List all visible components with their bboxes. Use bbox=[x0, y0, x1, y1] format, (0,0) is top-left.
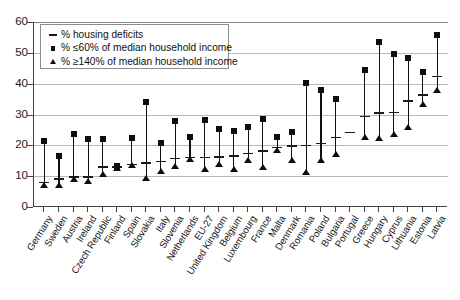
marker-below-60 bbox=[362, 67, 368, 73]
gridline bbox=[34, 145, 448, 146]
marker-below-60 bbox=[405, 55, 411, 61]
marker-above-140 bbox=[404, 124, 412, 130]
marker-housing-deficits bbox=[345, 132, 355, 134]
marker-below-60 bbox=[129, 135, 135, 141]
marker-above-140 bbox=[390, 131, 398, 137]
y-tick-label: 20 bbox=[2, 139, 28, 151]
marker-housing-deficits bbox=[389, 112, 399, 114]
marker-housing-deficits bbox=[243, 153, 253, 155]
marker-above-140 bbox=[332, 151, 340, 157]
marker-above-140 bbox=[259, 164, 267, 170]
marker-housing-deficits bbox=[374, 112, 384, 114]
marker-housing-deficits bbox=[200, 157, 210, 159]
x-tick-mark bbox=[378, 207, 379, 212]
marker-housing-deficits bbox=[360, 116, 370, 118]
marker-below-60 bbox=[216, 126, 222, 132]
marker-above-140 bbox=[230, 166, 238, 172]
x-tick-mark bbox=[145, 207, 146, 212]
marker-housing-deficits bbox=[316, 143, 326, 145]
marker-housing-deficits bbox=[331, 137, 341, 139]
gridline bbox=[34, 176, 448, 177]
x-tick-mark bbox=[218, 207, 219, 212]
range-stem bbox=[44, 141, 45, 186]
range-stem bbox=[58, 156, 59, 186]
range-stem bbox=[422, 72, 423, 104]
y-tick-label: 50 bbox=[2, 47, 28, 59]
range-stem bbox=[393, 54, 394, 134]
x-tick-mark bbox=[276, 207, 277, 212]
range-stem bbox=[306, 83, 307, 172]
x-tick-mark bbox=[73, 207, 74, 212]
marker-below-60 bbox=[434, 32, 440, 38]
marker-above-140 bbox=[157, 168, 165, 174]
marker-above-140 bbox=[128, 162, 136, 168]
range-stem bbox=[102, 139, 103, 174]
range-stem bbox=[364, 70, 365, 136]
marker-above-140 bbox=[375, 135, 383, 141]
range-stem bbox=[379, 42, 380, 137]
x-tick-mark bbox=[305, 207, 306, 212]
marker-below-60 bbox=[420, 69, 426, 75]
range-stem bbox=[131, 138, 132, 166]
x-tick-mark bbox=[320, 207, 321, 212]
legend-item-above-140: % ≥140% of median household income bbox=[47, 55, 223, 69]
marker-below-60 bbox=[274, 134, 280, 140]
marker-housing-deficits bbox=[432, 76, 442, 78]
marker-housing-deficits bbox=[272, 147, 282, 149]
triangle-marker-icon bbox=[47, 59, 59, 64]
marker-housing-deficits bbox=[127, 164, 137, 166]
marker-above-140 bbox=[317, 157, 325, 163]
y-tick-label: 40 bbox=[2, 78, 28, 90]
x-tick-mark bbox=[87, 207, 88, 212]
marker-housing-deficits bbox=[185, 157, 195, 159]
marker-above-140 bbox=[273, 147, 281, 153]
marker-housing-deficits bbox=[418, 94, 428, 96]
range-stem bbox=[189, 137, 190, 160]
marker-housing-deficits bbox=[170, 158, 180, 160]
range-stem bbox=[248, 127, 249, 161]
x-tick-mark bbox=[174, 207, 175, 212]
marker-housing-deficits bbox=[39, 182, 49, 184]
range-stem bbox=[146, 102, 147, 178]
x-tick-mark bbox=[116, 207, 117, 212]
marker-housing-deficits bbox=[98, 166, 108, 168]
marker-housing-deficits bbox=[214, 156, 224, 158]
marker-housing-deficits bbox=[112, 166, 122, 168]
marker-housing-deficits bbox=[229, 155, 239, 157]
range-stem bbox=[262, 119, 263, 167]
marker-below-60 bbox=[260, 116, 266, 122]
marker-above-140 bbox=[244, 157, 252, 163]
marker-below-60 bbox=[85, 136, 91, 142]
legend-item-below-60: % ≤60% of median household income bbox=[47, 42, 223, 56]
range-stem bbox=[73, 134, 74, 179]
marker-below-60 bbox=[41, 138, 47, 144]
range-stem bbox=[175, 121, 176, 166]
x-tick-mark bbox=[43, 207, 44, 212]
chart-legend: % housing deficits % ≤60% of median hous… bbox=[40, 24, 229, 69]
y-tick-label: 0 bbox=[2, 201, 28, 213]
marker-above-140 bbox=[40, 182, 48, 188]
range-stem bbox=[437, 35, 438, 90]
x-tick-mark bbox=[407, 207, 408, 212]
marker-housing-deficits bbox=[156, 161, 166, 163]
chart-container: 0102030405060 GermanySwedenAustriaIrelan… bbox=[0, 0, 460, 300]
marker-above-140 bbox=[171, 163, 179, 169]
range-stem bbox=[277, 137, 278, 150]
marker-below-60 bbox=[172, 118, 178, 124]
marker-below-60 bbox=[187, 134, 193, 140]
x-tick-mark bbox=[131, 207, 132, 212]
marker-above-140 bbox=[288, 157, 296, 163]
marker-housing-deficits bbox=[141, 162, 151, 164]
marker-housing-deficits bbox=[403, 100, 413, 102]
marker-below-60 bbox=[100, 136, 106, 142]
y-tick-label: 30 bbox=[2, 109, 28, 121]
marker-below-60 bbox=[333, 96, 339, 102]
range-stem bbox=[320, 90, 321, 160]
marker-below-60 bbox=[71, 131, 77, 137]
x-tick-mark bbox=[247, 207, 248, 212]
legend-item-housing-deficits: % housing deficits bbox=[47, 28, 223, 42]
x-tick-mark bbox=[204, 207, 205, 212]
x-tick-mark bbox=[436, 207, 437, 212]
marker-above-140 bbox=[84, 178, 92, 184]
x-tick-mark bbox=[160, 207, 161, 212]
